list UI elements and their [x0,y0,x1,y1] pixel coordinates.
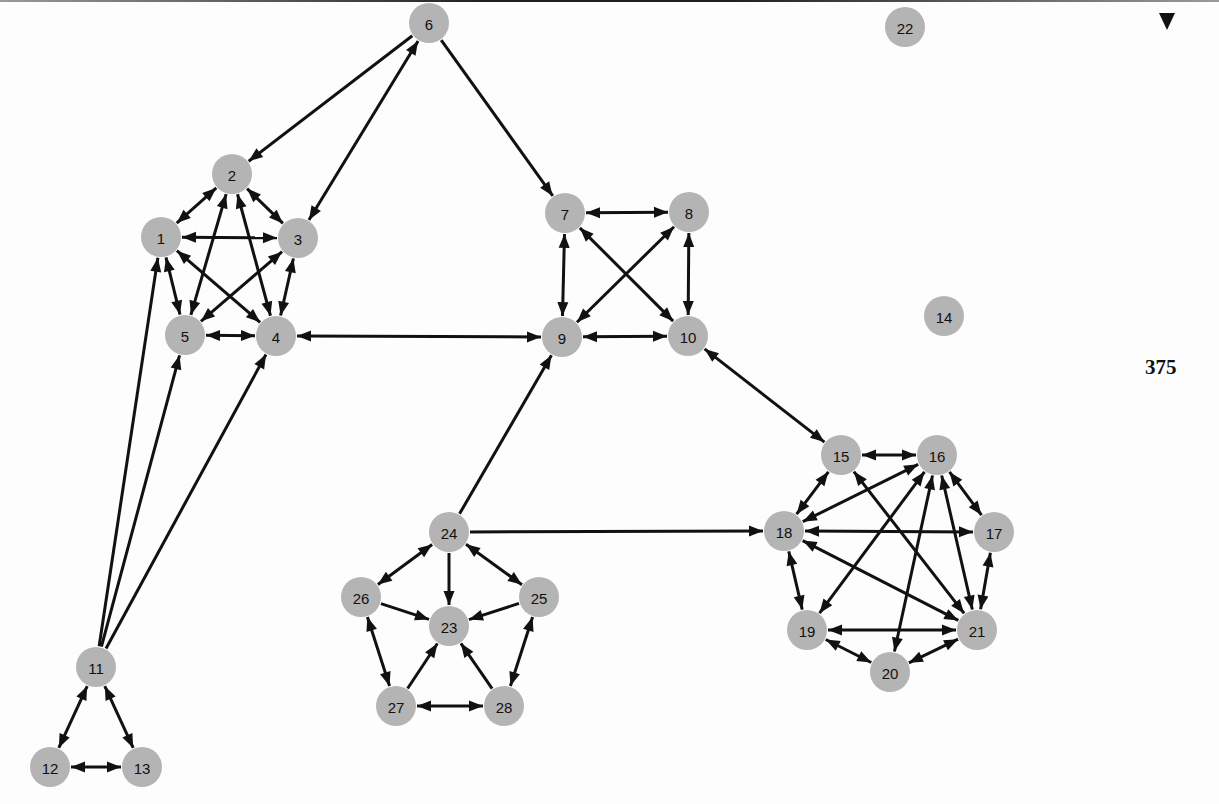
node-11: 11 [76,647,116,687]
arrowhead-icon [297,331,311,342]
edge-4-9 [297,331,541,343]
edge-7-9 [557,234,569,316]
arrowhead-icon [583,331,597,342]
edge-6-3 [309,41,418,220]
edge-11-13 [105,686,133,748]
edge-11-4 [106,354,266,648]
arrowhead-icon [902,450,916,461]
page-number: 375 [1145,355,1177,380]
edge-19-20 [826,639,872,662]
arrowhead-icon [107,762,121,773]
node-label: 22 [897,20,914,37]
node-3: 3 [278,218,318,258]
arrowhead-icon [417,701,431,712]
edge-line [99,258,158,646]
arrowhead-icon [380,671,390,686]
arrowhead-icon [828,625,842,636]
nodes-layer: 1234567891011121314151617181920212223242… [30,3,1014,787]
arrowhead-icon [254,354,266,369]
node-label: 14 [936,309,953,326]
edge-4-5 [206,330,255,341]
edge-11-1 [99,258,161,646]
arrowhead-icon [76,686,87,701]
node-label: 7 [561,206,569,223]
edge-9-10 [583,331,667,342]
node-4: 4 [256,316,296,356]
node-27: 27 [376,686,416,726]
arrowhead-icon [826,639,841,650]
node-label: 16 [929,448,946,465]
node-9: 9 [542,317,582,357]
edge-16-17 [949,472,981,515]
edge-line [106,354,266,648]
arrowhead-icon [366,617,376,632]
arrowhead-icon [540,181,553,196]
node-label: 24 [441,525,458,542]
edge-3-4 [278,258,295,315]
node-23: 23 [429,606,469,646]
arrowhead-icon [406,41,418,56]
arrowhead-icon [909,652,924,663]
down-triangle-icon [1159,13,1175,30]
arrowhead-icon [803,541,818,552]
arrowhead-icon [523,617,533,632]
arrowhead-icon [527,331,541,342]
node-label: 11 [88,660,104,677]
edge-line [191,194,226,315]
node-label: 1 [157,230,165,247]
node-label: 17 [986,525,1003,542]
edge-11-12 [59,686,87,748]
node-20: 20 [870,652,910,692]
edge-line [177,251,260,323]
arrowhead-icon [241,330,255,341]
arrowhead-icon [903,464,918,475]
edge-line [705,349,825,442]
node-19: 19 [787,610,827,650]
node-21: 21 [957,610,997,650]
arrowhead-icon [206,330,220,341]
arrowhead-icon [469,610,484,620]
node-26: 26 [341,577,381,617]
arrowhead-icon [150,258,161,273]
node-label: 25 [531,590,548,607]
node-16: 16 [917,435,957,475]
arrowhead-icon [978,595,989,610]
node-22: 22 [885,7,925,47]
node-label: 18 [776,524,793,541]
directed-graph-diagram: 1234567891011121314151617181920212223242… [0,0,1219,804]
edge-11-5 [101,355,181,646]
edge-8-10 [683,233,694,315]
edge-25-23 [469,603,519,620]
arrowhead-icon [236,194,247,209]
arrowhead-icon [444,591,455,605]
arrowhead-icon [171,355,182,370]
edge-1-5 [164,257,182,314]
arrowhead-icon [683,233,694,247]
edge-15-18 [797,472,829,514]
arrowhead-icon [190,300,201,315]
node-24: 24 [429,512,469,552]
node-1: 1 [141,217,181,257]
arrowhead-icon [683,301,694,315]
node-2: 2 [212,154,252,194]
node-label: 3 [294,231,302,248]
edge-20-21 [909,639,958,663]
node-label: 2 [228,167,236,184]
arrowhead-icon [414,610,429,620]
arrowhead-icon [263,232,277,243]
node-5: 5 [165,315,205,355]
edge-2-4 [236,194,272,315]
edge-28-23 [461,643,492,688]
node-7: 7 [545,193,585,233]
node-25: 25 [519,577,559,617]
node-8: 8 [669,192,709,232]
arrowhead-icon [217,194,228,209]
node-label: 15 [833,448,850,465]
arrowhead-icon [803,511,818,522]
edge-26-23 [381,604,429,621]
arrowhead-icon [983,553,994,568]
edge-line [101,355,179,646]
node-label: 4 [272,329,280,346]
edge-24-9 [460,355,552,514]
arrowhead-icon [105,686,116,701]
